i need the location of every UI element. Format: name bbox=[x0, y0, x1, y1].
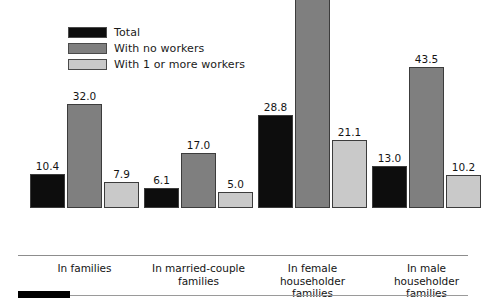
bar-value-label: 6.1 bbox=[153, 174, 170, 186]
bar[interactable] bbox=[446, 175, 481, 208]
footer-black-mark bbox=[18, 291, 70, 298]
bar[interactable] bbox=[295, 0, 330, 208]
bar[interactable] bbox=[372, 166, 407, 208]
bar-group-bars: 10.432.07.9 bbox=[30, 104, 139, 208]
bar-slot: 28.8 bbox=[258, 115, 293, 208]
bar-slot: 17.0 bbox=[181, 153, 216, 208]
bar-slot: 6.1 bbox=[144, 188, 179, 208]
bar[interactable] bbox=[409, 67, 444, 208]
bar[interactable] bbox=[258, 115, 293, 208]
bar-value-label: 32.0 bbox=[73, 90, 96, 102]
bar-value-label: 43.5 bbox=[415, 53, 438, 65]
bar-group-bars: 6.117.05.0 bbox=[144, 153, 253, 208]
bar-value-label: 17.0 bbox=[187, 139, 210, 151]
bar[interactable] bbox=[104, 182, 139, 208]
bar-value-label: 21.1 bbox=[338, 126, 361, 138]
category-label: In male householder families bbox=[354, 262, 485, 300]
bar[interactable] bbox=[30, 174, 65, 208]
bar-group-bars: 13.043.510.2 bbox=[372, 67, 481, 208]
bar-slot: 43.5 bbox=[409, 67, 444, 208]
plot-area: 10.432.07.96.117.05.028.870.821.113.043.… bbox=[0, 0, 477, 257]
footer-rule bbox=[18, 295, 468, 296]
bar[interactable] bbox=[332, 140, 367, 208]
bar[interactable] bbox=[144, 188, 179, 208]
bar-value-label: 28.8 bbox=[264, 101, 287, 113]
bar[interactable] bbox=[67, 104, 102, 208]
bar-value-label: 7.9 bbox=[113, 168, 130, 180]
bar-slot: 7.9 bbox=[104, 182, 139, 208]
bar-slot: 10.2 bbox=[446, 175, 481, 208]
bar-slot: 13.0 bbox=[372, 166, 407, 208]
bar-slot: 70.8 bbox=[295, 0, 330, 208]
bar-group-bars: 28.870.821.1 bbox=[258, 0, 367, 208]
bar-slot: 21.1 bbox=[332, 140, 367, 208]
bar-slot: 32.0 bbox=[67, 104, 102, 208]
bar-slot: 10.4 bbox=[30, 174, 65, 208]
bar-value-label: 13.0 bbox=[378, 152, 401, 164]
bar-slot: 5.0 bbox=[218, 192, 253, 208]
bar[interactable] bbox=[181, 153, 216, 208]
bar-value-label: 10.4 bbox=[36, 160, 59, 172]
bar[interactable] bbox=[218, 192, 253, 208]
bar-value-label: 5.0 bbox=[227, 178, 244, 190]
x-axis-baseline bbox=[18, 255, 468, 256]
bar-value-label: 10.2 bbox=[452, 161, 475, 173]
